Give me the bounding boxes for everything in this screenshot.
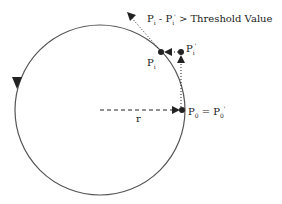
p0-label: P0 = P0': [188, 105, 226, 119]
p0-point: [179, 107, 185, 113]
pi-point: [158, 49, 164, 55]
radius-arrowhead-icon: [172, 106, 180, 114]
direction-arrow-icon: [12, 77, 22, 89]
pi-prime-label: Pi': [186, 42, 197, 56]
pi-prime-point: [178, 49, 184, 55]
deviation-arrowhead-icon: [127, 12, 136, 21]
pi-label: Pi: [147, 57, 156, 70]
threshold-condition-label: Pi - Pi' > Threshold Value: [147, 13, 273, 26]
pi-prime-arrowhead-icon: [177, 55, 185, 63]
circular-motion-diagram: Pi - Pi' > Threshold Value Pi Pi' r P0 =…: [0, 0, 282, 204]
radius-label: r: [136, 113, 141, 124]
